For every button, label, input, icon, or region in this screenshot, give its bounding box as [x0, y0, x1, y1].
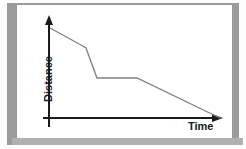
data-series-line	[50, 28, 220, 118]
y-axis-arrow-icon	[45, 15, 53, 25]
x-axis-label: Time	[188, 120, 213, 132]
y-axis-label: Distance	[42, 44, 54, 114]
screenshot-root: Distance Time	[0, 0, 246, 149]
y-axis-label-container: Distance	[14, 20, 32, 100]
